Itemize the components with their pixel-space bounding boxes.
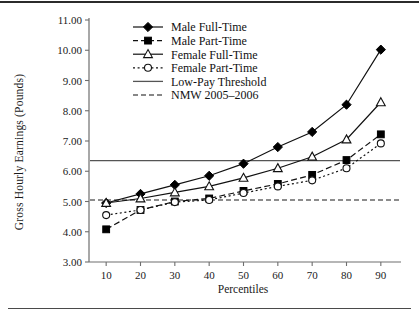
x-axis-title: Percentiles: [88, 283, 398, 295]
legend-label: Male Full-Time: [171, 20, 247, 34]
legend-label: Male Part-Time: [171, 34, 247, 48]
x-axis-tick-label: 90: [375, 269, 387, 281]
x-axis-tick-label: 40: [204, 269, 216, 281]
marker-open-triangle: [144, 50, 153, 58]
marker-open-circle: [171, 199, 178, 206]
x-axis-tick-label: 60: [272, 269, 284, 281]
figure-container: 11.0010.009.008.007.006.005.004.003.0010…: [0, 0, 419, 313]
marker-open-circle: [377, 140, 384, 147]
marker-open-circle: [274, 183, 281, 190]
marker-open-triangle: [376, 98, 385, 106]
y-axis-tick-label: 11.00: [58, 14, 83, 26]
chart-legend: Male Full-TimeMale Part-TimeFemale Full-…: [133, 20, 266, 102]
legend-item: Female Part-Time: [133, 61, 258, 75]
marker-open-circle: [145, 64, 152, 71]
marker-open-circle: [240, 190, 247, 197]
y-axis-tick-label: 4.00: [63, 226, 83, 238]
line-chart-svg: 11.0010.009.008.007.006.005.004.003.0010…: [0, 0, 419, 313]
x-axis-tick-label: 70: [307, 269, 319, 281]
legend-item: Female Full-Time: [133, 48, 258, 62]
legend-item: NMW 2005–2006: [133, 88, 258, 102]
legend-label: NMW 2005–2006: [171, 88, 258, 102]
y-axis-tick-label: 8.00: [63, 105, 83, 117]
marker-filled-diamond: [205, 171, 214, 180]
y-axis-tick-label: 3.00: [63, 256, 83, 268]
marker-open-circle: [206, 196, 213, 203]
x-axis-tick-label: 30: [169, 269, 181, 281]
x-axis-tick-label: 80: [341, 269, 353, 281]
marker-filled-diamond: [273, 142, 282, 151]
legend-label: Female Full-Time: [171, 48, 258, 62]
marker-filled-square: [103, 226, 110, 233]
marker-filled-diamond: [143, 22, 152, 31]
y-axis-tick-label: 7.00: [63, 135, 83, 147]
y-axis-tick-label: 9.00: [63, 75, 83, 87]
marker-open-circle: [137, 206, 144, 213]
x-axis-tick-label: 50: [238, 269, 250, 281]
marker-open-triangle: [308, 152, 317, 160]
legend-label: Female Part-Time: [171, 61, 258, 75]
y-axis-tick-label: 10.00: [57, 44, 82, 56]
marker-filled-diamond: [376, 45, 385, 54]
legend-item: Male Full-Time: [133, 20, 247, 34]
chart-plot-area: 11.0010.009.008.007.006.005.004.003.0010…: [0, 0, 419, 313]
marker-filled-square: [145, 37, 152, 44]
x-axis-tick-label: 10: [101, 269, 113, 281]
marker-open-circle: [309, 177, 316, 184]
x-axis-tick-label: 20: [135, 269, 147, 281]
legend-label: Low-Pay Threshold: [171, 75, 266, 89]
marker-filled-square: [343, 157, 350, 164]
marker-filled-square: [377, 131, 384, 138]
y-axis-tick-label: 6.00: [63, 165, 83, 177]
marker-open-circle: [103, 212, 110, 219]
legend-item: Low-Pay Threshold: [133, 75, 266, 89]
legend-item: Male Part-Time: [133, 34, 247, 48]
y-axis-tick-label: 5.00: [63, 196, 83, 208]
marker-open-circle: [343, 165, 350, 172]
y-axis-title: Gross Hourly Earnings (Pounds): [13, 47, 25, 257]
